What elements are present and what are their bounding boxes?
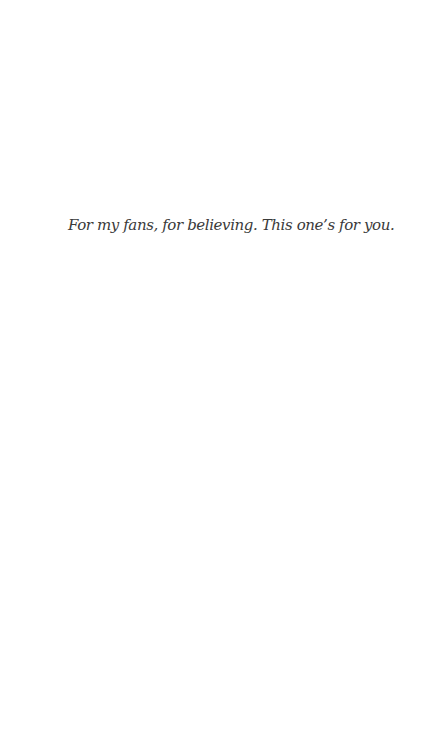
dedication-text: For my fans, for believing. This one’s f…	[68, 214, 394, 236]
book-page: For my fans, for believing. This one’s f…	[0, 0, 429, 751]
